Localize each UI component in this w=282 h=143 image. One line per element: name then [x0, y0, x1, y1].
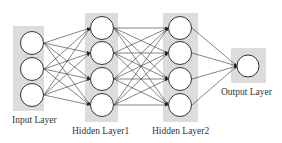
hidden-layer1-label: Hidden Layer1 — [72, 126, 129, 136]
edges — [44, 28, 237, 105]
hidden1-node — [91, 42, 114, 65]
input-node — [21, 58, 44, 81]
input-node — [21, 32, 44, 55]
hidden-layer2-label: Hidden Layer2 — [152, 126, 209, 136]
hidden2-node — [169, 17, 192, 40]
hidden1-node — [91, 94, 114, 117]
hidden2-node — [169, 94, 192, 117]
output-node — [237, 55, 259, 77]
hidden1-node — [91, 68, 114, 91]
output-layer-label: Output Layer — [221, 87, 273, 97]
hidden2-node — [169, 42, 192, 65]
hidden2-node — [169, 68, 192, 91]
neural-network-diagram: Input Layer Hidden Layer1 Hidden Layer2 … — [0, 0, 282, 143]
input-layer-label: Input Layer — [12, 115, 57, 125]
input-node — [21, 84, 44, 107]
hidden1-node — [91, 17, 114, 40]
